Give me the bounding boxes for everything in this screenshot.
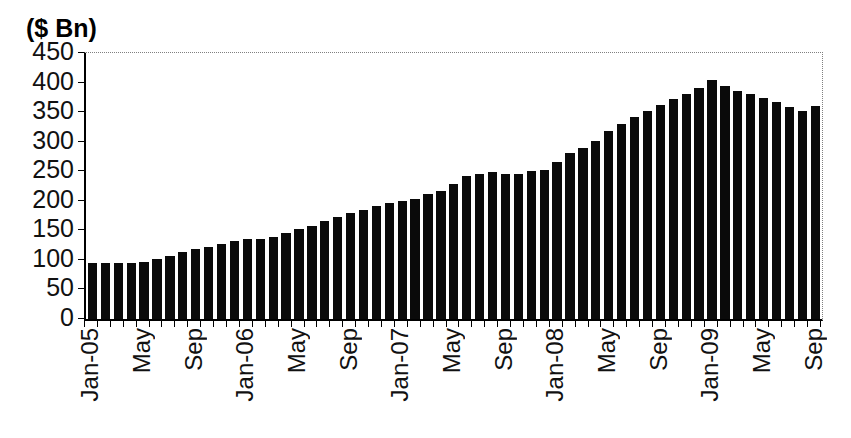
x-tick-mark — [381, 320, 382, 327]
bar-slot — [447, 53, 460, 319]
bar-Jan-09 — [707, 80, 716, 319]
x-tick-label-May: May — [282, 328, 312, 373]
bar-slot — [396, 53, 409, 319]
bar-slot — [151, 53, 164, 319]
bar-Apr-08 — [591, 141, 600, 320]
bar-slot — [422, 53, 435, 319]
bar-Feb-05 — [101, 263, 110, 319]
x-tick-label-May: May — [127, 328, 157, 373]
bar-slot — [138, 53, 151, 319]
bar-slot — [589, 53, 602, 319]
y-tick-mark — [78, 259, 84, 260]
y-tick-label-450: 450 — [2, 39, 74, 64]
x-tick-mark — [717, 320, 718, 327]
y-tick-label-250: 250 — [2, 157, 74, 182]
bar-slot — [99, 53, 112, 319]
bar-slot — [125, 53, 138, 319]
bar-slot — [693, 53, 706, 319]
bar-Nov-07 — [527, 171, 536, 319]
bar-Jul-08 — [630, 117, 639, 319]
x-tick-mark — [123, 320, 124, 327]
x-tick-mark — [652, 320, 653, 327]
x-tick-mark — [355, 320, 356, 327]
x-tick-mark — [588, 320, 589, 327]
x-tick-mark — [704, 320, 705, 327]
x-tick-mark — [97, 320, 98, 327]
x-tick-mark — [252, 320, 253, 327]
bar-slot — [783, 53, 796, 319]
x-tick-mark — [613, 320, 614, 327]
x-tick-mark — [136, 320, 137, 327]
x-tick-mark — [536, 320, 537, 327]
x-tick-mark — [458, 320, 459, 327]
bar-May-06 — [294, 229, 303, 319]
bar-slot — [564, 53, 577, 319]
bar-slot — [176, 53, 189, 319]
plot-area — [84, 52, 823, 321]
bar-Feb-08 — [565, 153, 574, 319]
x-tick-label-Sep: Sep — [489, 328, 519, 371]
bar-slot — [615, 53, 628, 319]
bar-Nov-06 — [372, 206, 381, 319]
bar-slot — [731, 53, 744, 319]
bar-Feb-06 — [256, 239, 265, 319]
bar-slot — [434, 53, 447, 319]
bar-slot — [460, 53, 473, 319]
y-tick-label-200: 200 — [2, 187, 74, 212]
x-tick-mark — [213, 320, 214, 327]
bar-Aug-06 — [333, 217, 342, 319]
x-tick-label-Sep: Sep — [644, 328, 674, 371]
bar-slot — [473, 53, 486, 319]
bar-Jun-06 — [307, 226, 316, 319]
x-tick-mark — [200, 320, 201, 327]
x-tick-label-Jan-09: Jan-09 — [695, 328, 725, 401]
x-tick-mark — [820, 320, 821, 327]
bar-slot — [215, 53, 228, 319]
bar-Jan-08 — [552, 162, 561, 319]
x-tick-mark — [187, 320, 188, 327]
y-tick-mark — [78, 141, 84, 142]
y-tick-label-150: 150 — [2, 216, 74, 241]
bar-slot — [602, 53, 615, 319]
bar-Apr-06 — [281, 233, 290, 319]
x-tick-mark — [730, 320, 731, 327]
bar-slot — [770, 53, 783, 319]
x-tick-mark — [278, 320, 279, 327]
x-tick-mark — [161, 320, 162, 327]
bar-Apr-07 — [436, 191, 445, 319]
x-tick-mark — [807, 320, 808, 327]
bar-Jan-07 — [398, 201, 407, 319]
x-tick-label-Jan-06: Jan-06 — [230, 328, 260, 401]
bar-Jun-09 — [772, 102, 781, 319]
bar-Dec-08 — [694, 88, 703, 319]
bar-Jul-09 — [785, 107, 794, 319]
bar-slot — [680, 53, 693, 319]
bar-Jul-05 — [165, 256, 174, 319]
bar-slot — [241, 53, 254, 319]
x-tick-mark — [446, 320, 447, 327]
bar-Jan-05 — [88, 263, 97, 319]
bar-slot — [654, 53, 667, 319]
bar-slot — [267, 53, 280, 319]
bar-slot — [318, 53, 331, 319]
bar-Mar-09 — [733, 91, 742, 319]
bar-slot — [538, 53, 551, 319]
x-tick-mark — [420, 320, 421, 327]
x-tick-mark — [794, 320, 795, 327]
bar-May-07 — [449, 184, 458, 319]
x-tick-mark — [755, 320, 756, 327]
y-tick-label-0: 0 — [2, 305, 74, 330]
bar-slot — [86, 53, 99, 319]
x-tick-mark — [484, 320, 485, 327]
bar-slot — [344, 53, 357, 319]
y-tick-mark — [78, 170, 84, 171]
x-tick-mark — [149, 320, 150, 327]
bar-Jan-06 — [243, 239, 252, 319]
y-tick-mark — [78, 288, 84, 289]
bar-May-08 — [604, 131, 613, 319]
bar-slot — [254, 53, 267, 319]
bar-slot — [112, 53, 125, 319]
bar-Aug-05 — [178, 252, 187, 319]
bar-slot — [357, 53, 370, 319]
bar-Dec-05 — [230, 241, 239, 319]
